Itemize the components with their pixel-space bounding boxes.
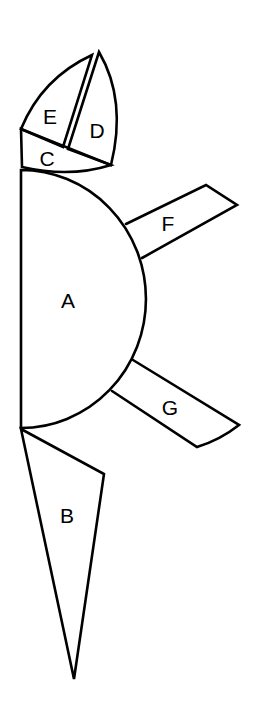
piece-d-label: D [89, 119, 104, 142]
piece-a: A [21, 170, 146, 428]
piece-e-label: E [43, 105, 57, 128]
piece-a-outline [21, 170, 146, 428]
piece-g: G [112, 360, 239, 447]
shape-diagram: A B C E D F G [0, 0, 253, 705]
piece-e: E [21, 55, 92, 147]
piece-f-label: F [162, 212, 175, 235]
piece-b: B [21, 429, 104, 679]
piece-e-outline [21, 55, 92, 147]
piece-c-label: C [39, 147, 54, 170]
piece-g-label: G [162, 396, 178, 419]
piece-a-label: A [61, 289, 75, 312]
piece-f: F [126, 185, 237, 258]
piece-b-label: B [60, 504, 74, 527]
piece-f-outline [126, 185, 237, 258]
piece-b-outline [21, 429, 104, 679]
